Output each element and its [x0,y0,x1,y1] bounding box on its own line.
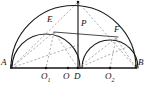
point-label-O: O [63,72,70,81]
point-label-O2-subscript: 2 [112,77,115,83]
point-label-B: B [138,58,144,67]
point-label-P: P [81,19,87,28]
ray-F-B-line [116,38,136,68]
point-dot-O1 [45,67,48,70]
point-label-D: D [74,72,81,81]
point-label-O1: O1 [41,72,51,83]
geometry-figure: A B O1 O D O2 E P F [0,0,147,89]
point-label-F: F [114,25,120,34]
left-semicircle-AD-path [12,34,80,68]
point-label-A: A [1,58,7,67]
chord-EF-line [54,32,118,37]
point-label-O2: O2 [105,72,115,83]
point-dot-O [67,67,70,70]
point-label-O1-subscript: 1 [48,77,51,83]
point-label-E: E [47,15,53,24]
point-dot-O2 [109,67,112,70]
point-dot-C [77,1,80,4]
ray-AE-line [11,45,78,68]
ray-D-F-ext-line [78,44,134,68]
point-dot-D [77,67,80,70]
